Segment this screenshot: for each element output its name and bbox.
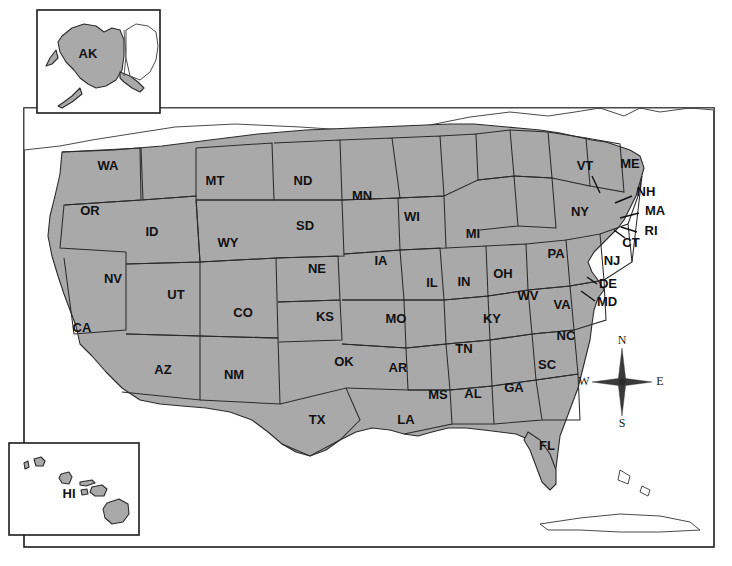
compass-south-label: S [619,416,626,430]
state-label-wi[interactable]: WI [404,209,420,224]
state-label-ky[interactable]: KY [483,311,501,326]
state-label-nh[interactable]: NH [637,184,656,199]
state-label-sc[interactable]: SC [538,357,557,372]
state-label-mo[interactable]: MO [386,311,407,326]
state-label-wa[interactable]: WA [98,158,120,173]
state-label-ca[interactable]: CA [73,320,92,335]
state-label-ny[interactable]: NY [571,204,589,219]
hawaii-niihau [24,461,29,469]
state-label-ri[interactable]: RI [645,223,658,238]
compass-west-label: W [578,374,590,388]
state-label-or[interactable]: OR [80,203,100,218]
state-label-id[interactable]: ID [146,224,159,239]
state-label-de[interactable]: DE [599,276,617,291]
state-label-me[interactable]: ME [620,156,640,171]
state-label-oh[interactable]: OH [493,266,513,281]
state-label-tx[interactable]: TX [309,412,326,427]
state-label-al[interactable]: AL [464,386,481,401]
state-label-va[interactable]: VA [553,297,571,312]
state-label-pa[interactable]: PA [547,246,565,261]
map-canvas: WAORIDMTWYNVUTCAAZNMCONDSDNEKSOKTXMNIAMO… [0,0,732,566]
state-label-ks[interactable]: KS [316,309,334,324]
hawaii-inset[interactable]: HI [9,443,139,535]
state-label-ar[interactable]: AR [389,360,408,375]
state-label-nj[interactable]: NJ [604,253,621,268]
state-label-mt[interactable]: MT [206,173,225,188]
state-label-ma[interactable]: MA [645,203,666,218]
state-label-co[interactable]: CO [233,305,253,320]
state-label-ms[interactable]: MS [428,387,448,402]
state-label-wv[interactable]: WV [518,288,539,303]
state-label-in[interactable]: IN [458,274,471,289]
hawaii-maui [90,485,107,496]
state-label-ia[interactable]: IA [375,253,389,268]
state-label-wy[interactable]: WY [218,235,239,250]
state-label-mi[interactable]: MI [466,226,480,241]
alaska-label: AK [79,46,98,61]
hawaii-lanai [81,489,88,495]
hawaii-oahu [59,472,72,484]
state-label-nc[interactable]: NC [557,328,576,343]
state-label-ne[interactable]: NE [308,261,326,276]
state-label-ok[interactable]: OK [334,354,354,369]
state-label-la[interactable]: LA [397,412,415,427]
hawaii-label: HI [63,486,76,501]
state-label-ct[interactable]: CT [622,235,639,250]
state-label-ut[interactable]: UT [167,287,184,302]
alaska-inset[interactable]: AK [37,10,160,113]
state-label-nm[interactable]: NM [224,367,244,382]
state-label-sd[interactable]: SD [296,218,314,233]
state-label-fl[interactable]: FL [539,438,555,453]
state-label-nv[interactable]: NV [104,271,122,286]
state-label-tn[interactable]: TN [455,341,472,356]
state-label-ga[interactable]: GA [504,380,524,395]
us-state-map: WAORIDMTWYNVUTCAAZNMCONDSDNEKSOKTXMNIAMO… [0,0,732,566]
state-label-mn[interactable]: MN [352,188,372,203]
state-label-il[interactable]: IL [426,275,438,290]
state-label-az[interactable]: AZ [154,362,171,377]
compass-east-label: E [656,374,663,388]
state-label-nd[interactable]: ND [294,173,313,188]
state-label-vt[interactable]: VT [577,158,594,173]
compass-north-label: N [618,333,627,347]
compass-center [619,379,625,385]
state-label-md[interactable]: MD [597,294,617,309]
